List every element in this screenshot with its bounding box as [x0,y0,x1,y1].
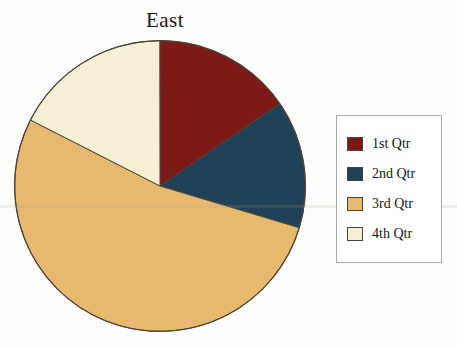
legend-color-swatch [347,137,363,151]
legend-item: 2nd Qtr [347,163,441,185]
pie-chart-svg [13,40,307,334]
legend-item-label: 1st Qtr [372,136,411,152]
pie-slice-group [15,41,306,332]
legend-item: 4th Qtr [347,223,441,245]
legend-color-swatch [347,167,363,181]
scanned-page: East 1st Qtr2nd Qtr3rd Qtr4th Qtr [0,0,457,349]
pie-chart [13,40,307,334]
legend-item-label: 4th Qtr [372,226,412,242]
legend-item-label: 2nd Qtr [372,166,415,182]
legend-item-label: 3rd Qtr [372,196,413,212]
chart-title: East [0,8,330,33]
legend-item-list: 1st Qtr2nd Qtr3rd Qtr4th Qtr [337,116,441,262]
legend-item: 1st Qtr [347,133,441,155]
legend: 1st Qtr2nd Qtr3rd Qtr4th Qtr [336,115,442,263]
legend-color-swatch [347,227,363,241]
legend-item: 3rd Qtr [347,193,441,215]
legend-color-swatch [347,197,363,211]
